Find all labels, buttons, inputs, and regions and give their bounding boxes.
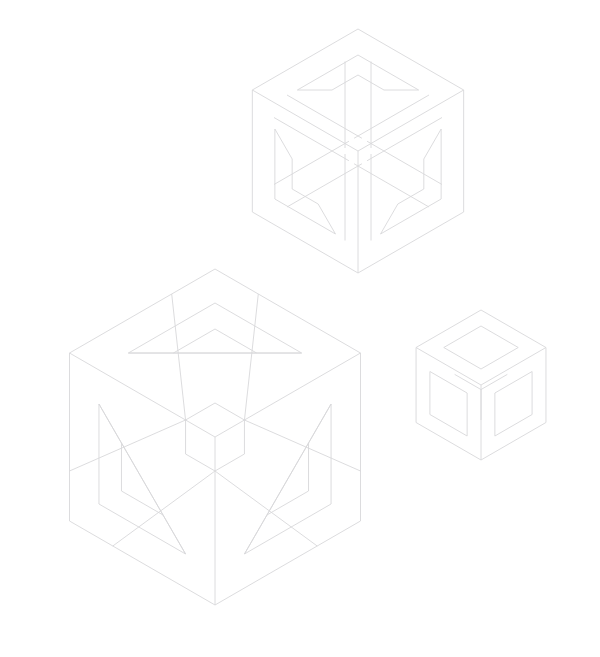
isometric-cubes-figure <box>0 0 600 657</box>
drawing-canvas <box>0 0 600 657</box>
background-rect <box>0 0 600 657</box>
